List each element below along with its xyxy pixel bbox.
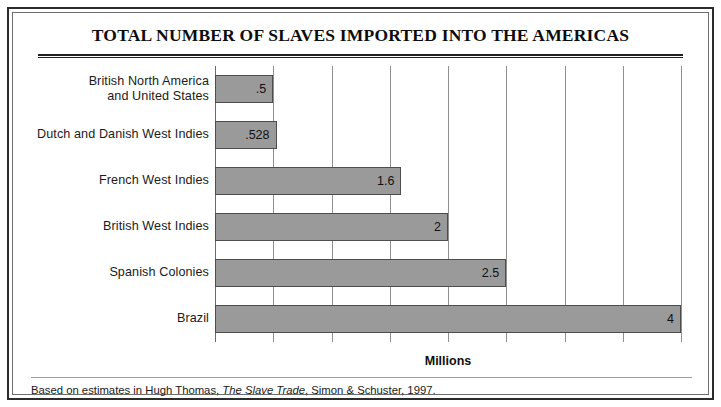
bar-value-label: 1.6 — [377, 175, 394, 188]
bar-track: .5 — [215, 75, 273, 103]
plot-inner: .5.5281.622.54 — [215, 66, 681, 342]
category-label-text: British West Indies — [103, 219, 209, 234]
figure-frame: TOTAL NUMBER OF SLAVES IMPORTED INTO THE… — [7, 7, 714, 400]
category-label-text: French West Indies — [99, 173, 209, 188]
bar-row: 4 — [215, 296, 681, 342]
figure-body: TOTAL NUMBER OF SLAVES IMPORTED INTO THE… — [13, 13, 708, 394]
gridline-4 — [681, 66, 682, 342]
category-label: Spanish Colonies — [31, 250, 209, 296]
category-label-text: Brazil — [177, 311, 209, 326]
figure-frame-inner-rule: TOTAL NUMBER OF SLAVES IMPORTED INTO THE… — [12, 12, 709, 395]
bar[interactable]: 2 — [215, 213, 448, 241]
bar-row: .528 — [215, 112, 681, 158]
bar-value-label: .528 — [245, 129, 269, 142]
bar[interactable]: 1.6 — [215, 167, 401, 195]
footnote-trail: , Simon & Schuster, 1997. — [305, 384, 436, 396]
bar-track: 2 — [215, 213, 448, 241]
chart-title: TOTAL NUMBER OF SLAVES IMPORTED INTO THE… — [13, 25, 708, 46]
bar[interactable]: 4 — [215, 305, 681, 333]
bar-row: 2 — [215, 204, 681, 250]
footnote-lead: Based on estimates in Hugh Thomas, — [31, 384, 222, 396]
category-label-text: Dutch and Danish West Indies — [37, 127, 209, 142]
bar-value-label: 4 — [667, 313, 674, 326]
bar-row: 1.6 — [215, 158, 681, 204]
bar-row: .5 — [215, 66, 681, 112]
category-axis-labels: British North Americaand United StatesDu… — [31, 66, 209, 342]
bar-track: 1.6 — [215, 167, 401, 195]
footnote-source-title: The Slave Trade — [222, 384, 305, 396]
bar-track: 4 — [215, 305, 681, 333]
category-label: French West Indies — [31, 158, 209, 204]
bar-row: 2.5 — [215, 250, 681, 296]
category-label-text: British North Americaand United States — [89, 74, 209, 105]
title-double-rule — [38, 54, 683, 58]
bar[interactable]: .5 — [215, 75, 273, 103]
footnote-rule — [31, 377, 692, 378]
category-label: British North Americaand United States — [31, 66, 209, 112]
category-label-text: Spanish Colonies — [109, 265, 209, 280]
x-axis-title: Millions — [215, 354, 681, 368]
bar-track: .528 — [215, 121, 277, 149]
category-label: Dutch and Danish West Indies — [31, 112, 209, 158]
bar-track: 2.5 — [215, 259, 506, 287]
category-label: British West Indies — [31, 204, 209, 250]
bar-value-label: 2.5 — [482, 267, 499, 280]
plot-area: .5.5281.622.54 — [215, 66, 681, 342]
bar-value-label: 2 — [434, 221, 441, 234]
bar[interactable]: 2.5 — [215, 259, 506, 287]
bar-value-label: .5 — [256, 83, 266, 96]
category-label: Brazil — [31, 296, 209, 342]
bar[interactable]: .528 — [215, 121, 277, 149]
footnote-source: Based on estimates in Hugh Thomas, The S… — [31, 384, 671, 396]
